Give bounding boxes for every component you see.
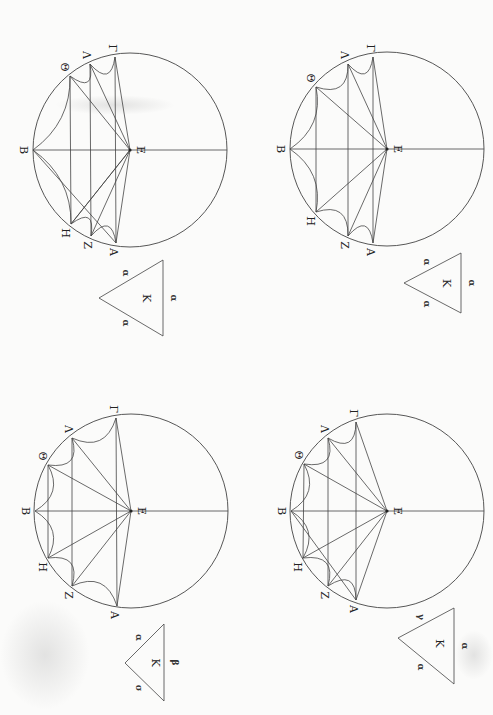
spoke-e-Γ bbox=[116, 418, 131, 511]
point-label-Z: Z bbox=[338, 241, 351, 249]
spoke-e-Λ bbox=[90, 64, 130, 150]
point-label-E: E bbox=[391, 507, 404, 515]
point-label-Λ: Λ bbox=[338, 50, 351, 60]
chord-gamma-a bbox=[116, 418, 117, 606]
point-label-E: E bbox=[134, 146, 147, 154]
chord-theta-h bbox=[70, 76, 71, 224]
center-point bbox=[129, 509, 132, 512]
arc-theta-lambda bbox=[48, 438, 74, 466]
arc-theta-lambda bbox=[316, 64, 348, 90]
point-label-Z: Z bbox=[81, 241, 94, 249]
triangle-label-k: K bbox=[140, 294, 153, 303]
triangle-side-mark: α bbox=[134, 634, 144, 641]
triangle-side-mark: α bbox=[460, 643, 470, 650]
triangle-side-mark: α bbox=[467, 280, 477, 287]
spoke-e-A bbox=[373, 149, 387, 243]
triangle-side-mark: α bbox=[422, 301, 432, 308]
arc-h-z bbox=[316, 210, 348, 236]
spoke-e-Θ bbox=[304, 464, 387, 511]
spoke-e-Θ bbox=[48, 465, 131, 511]
spoke-e-Z bbox=[348, 149, 387, 236]
point-label-Θ: Θ bbox=[58, 62, 71, 71]
triangle-label-k: K bbox=[433, 639, 446, 648]
spoke-e-Z bbox=[72, 511, 131, 586]
spoke-e-Λ bbox=[72, 438, 131, 511]
spoke-e-A bbox=[116, 150, 130, 243]
spoke-e-A bbox=[117, 511, 131, 606]
arc-h-z bbox=[48, 557, 74, 586]
point-label-Γ: Γ bbox=[347, 409, 360, 417]
point-label-B: B bbox=[19, 507, 32, 515]
point-label-Θ: Θ bbox=[292, 450, 305, 459]
arc-b-h bbox=[35, 511, 54, 558]
point-label-H: H bbox=[59, 228, 72, 238]
arc-b-theta bbox=[35, 465, 54, 511]
point-label-Θ: Θ bbox=[304, 73, 317, 82]
triangle-side-mark: α bbox=[121, 270, 131, 277]
point-label-Γ: Γ bbox=[107, 405, 120, 413]
arc-b-theta bbox=[290, 87, 318, 149]
diagram-page: BΘΛΓEHZAKαααBΘΛΓEHZAKαααBΘΛΓEHZAKαβσBΘΛΓ… bbox=[0, 0, 493, 715]
arc-h-z bbox=[303, 557, 330, 586]
triangle-side-mark: α bbox=[169, 295, 179, 302]
chord-gamma-a bbox=[115, 57, 116, 243]
triangle-side-mark: γ bbox=[416, 614, 426, 620]
center-point bbox=[385, 147, 388, 150]
spoke-e-Λ bbox=[328, 438, 387, 511]
spoke-e-Z bbox=[91, 150, 130, 236]
arc-theta-lambda bbox=[304, 438, 330, 465]
chord-theta-h bbox=[303, 464, 304, 558]
geometry-figures: BΘΛΓEHZAKαααBΘΛΓEHZAKαααBΘΛΓEHZAKαβσBΘΛΓ… bbox=[0, 0, 493, 715]
point-label-E: E bbox=[391, 145, 404, 153]
point-label-B: B bbox=[17, 146, 30, 154]
point-label-E: E bbox=[135, 507, 148, 515]
arc-z-a bbox=[72, 581, 117, 606]
spoke-e-Z bbox=[328, 511, 387, 586]
spoke-e-Θ bbox=[70, 76, 130, 150]
arc-b-h bbox=[291, 511, 309, 558]
spoke-e-Γ bbox=[373, 57, 387, 149]
point-label-Z: Z bbox=[62, 591, 75, 599]
point-label-A: A bbox=[107, 247, 120, 257]
point-label-A: A bbox=[108, 610, 121, 620]
spoke-e-Λ bbox=[348, 64, 387, 149]
point-label-H: H bbox=[304, 216, 317, 226]
point-label-Λ: Λ bbox=[80, 50, 93, 60]
triangle-side-mark: σ bbox=[134, 685, 144, 692]
point-label-Θ: Θ bbox=[36, 451, 49, 460]
point-label-B: B bbox=[274, 145, 287, 153]
spoke-e-H bbox=[316, 149, 387, 212]
arc-b-h bbox=[33, 150, 71, 224]
arc-b-h bbox=[290, 149, 318, 212]
spoke-e-Γ bbox=[115, 57, 130, 150]
arc-b-theta bbox=[33, 76, 70, 150]
spoke-e-A bbox=[356, 511, 387, 600]
spoke-e-H bbox=[303, 511, 387, 558]
center-point bbox=[128, 148, 131, 151]
point-label-H: H bbox=[36, 562, 49, 572]
point-label-Γ: Γ bbox=[364, 44, 377, 52]
point-label-A: A bbox=[364, 247, 377, 257]
triangle-label-k: K bbox=[440, 279, 453, 288]
chord-lambda-z bbox=[90, 64, 91, 236]
triangle-side-mark: α bbox=[416, 664, 426, 671]
triangle-label-k: K bbox=[149, 659, 162, 668]
chord-h-e bbox=[71, 150, 130, 224]
spoke-e-H bbox=[48, 511, 131, 558]
spoke-e-Γ bbox=[356, 422, 387, 511]
point-label-Λ: Λ bbox=[318, 424, 331, 434]
spoke-e-Θ bbox=[316, 87, 387, 149]
triangle-side-mark: α bbox=[121, 320, 131, 327]
point-label-Λ: Λ bbox=[62, 424, 75, 434]
center-point bbox=[385, 509, 388, 512]
triangle-side-mark: α bbox=[422, 259, 432, 266]
point-label-H: H bbox=[291, 562, 304, 572]
point-label-A: A bbox=[347, 604, 360, 614]
point-label-Z: Z bbox=[318, 591, 331, 599]
arc-b-theta bbox=[291, 464, 310, 511]
point-label-B: B bbox=[275, 507, 288, 515]
triangle-side-mark: β bbox=[170, 660, 180, 666]
point-label-Γ: Γ bbox=[106, 44, 119, 52]
